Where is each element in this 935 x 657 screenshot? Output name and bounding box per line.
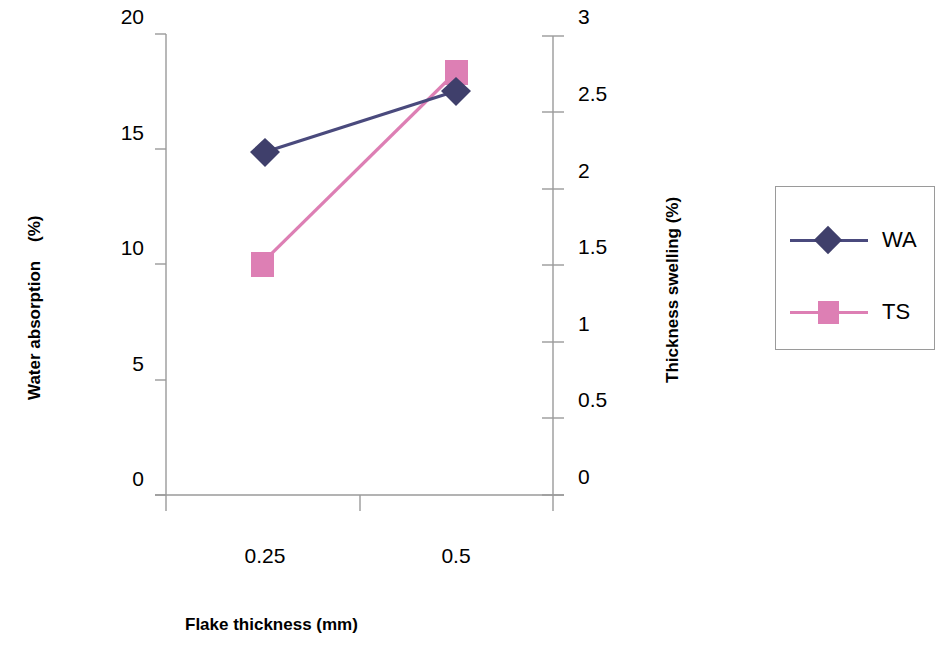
- right-axis-tick-label-2: 2: [578, 160, 590, 181]
- right-axis-title: Thickness swelling (%): [664, 197, 681, 383]
- series-line-wa: [265, 91, 456, 152]
- legend-swatch-wa: [790, 227, 868, 253]
- right-axis-tick-label-1-5: 1.5: [578, 236, 607, 257]
- x-axis-category-label-1: 0.5: [396, 545, 516, 566]
- right-axis-tick-label-0-5: 0.5: [578, 389, 607, 410]
- series-point-ts-0: [251, 252, 274, 277]
- right-axis-tick-label-0: 0: [578, 466, 590, 487]
- left-axis-tick-label-0: 0: [84, 468, 144, 489]
- right-axis-tick-label-2-5: 2.5: [578, 83, 607, 104]
- x-axis-category-label-0: 0.25: [205, 545, 325, 566]
- diamond-marker-icon: [814, 226, 842, 254]
- series-point-wa-0: [250, 138, 280, 167]
- left-axis-tick-label-10: 10: [84, 237, 144, 258]
- chart-legend: WA TS: [775, 186, 935, 350]
- left-axis-tick-label-20: 20: [84, 6, 144, 27]
- legend-label-ts: TS: [882, 301, 910, 323]
- left-axis-title: Water absorption (%): [26, 216, 43, 401]
- right-axis-tick-label-1: 1: [578, 313, 590, 334]
- legend-label-wa: WA: [882, 229, 917, 251]
- square-marker-icon: [818, 301, 839, 324]
- left-axis-tick-label-15: 15: [84, 122, 144, 143]
- legend-item-wa[interactable]: WA: [776, 225, 934, 255]
- x-axis-title: Flake thickness (mm): [185, 616, 358, 633]
- legend-swatch-ts: [790, 299, 868, 325]
- legend-item-ts[interactable]: TS: [776, 297, 934, 327]
- left-axis-tick-label-5: 5: [84, 353, 144, 374]
- right-axis-tick-label-3: 3: [578, 6, 590, 27]
